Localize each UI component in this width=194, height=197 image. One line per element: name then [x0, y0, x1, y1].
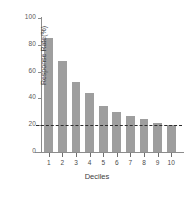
bar [140, 119, 149, 153]
x-tick-mark [158, 153, 159, 157]
x-tick-label: 10 [161, 159, 181, 166]
bar-chart: 020406080100 12345678910 Response Rate(%… [0, 0, 194, 197]
y-tick-label: 60 [29, 67, 36, 74]
x-tick-mark [103, 153, 104, 157]
x-tick-mark [90, 153, 91, 157]
bar [167, 125, 176, 152]
bar [126, 116, 135, 152]
y-axis-title: Response Rate(%) [40, 1, 47, 111]
y-tick-label: 100 [25, 13, 36, 20]
y-tick-label: 0 [32, 147, 36, 154]
bar [58, 61, 67, 152]
threshold-line [36, 125, 182, 126]
x-axis-title: Deciles [0, 172, 194, 181]
bar [72, 82, 81, 152]
y-tick-mark [38, 152, 42, 153]
x-tick-mark [62, 153, 63, 157]
x-tick-mark [49, 153, 50, 157]
x-axis-line [35, 152, 184, 153]
bar [153, 123, 162, 152]
x-tick-mark [171, 153, 172, 157]
y-tick-label: 80 [29, 40, 36, 47]
x-tick-mark [76, 153, 77, 157]
bar [85, 93, 94, 152]
y-tick-label: 40 [29, 93, 36, 100]
x-tick-mark [130, 153, 131, 157]
x-tick-mark [144, 153, 145, 157]
y-tick-label: 20 [29, 120, 36, 127]
bar [99, 106, 108, 152]
x-tick-mark [117, 153, 118, 157]
bar [112, 112, 121, 152]
plot-area [42, 18, 178, 152]
